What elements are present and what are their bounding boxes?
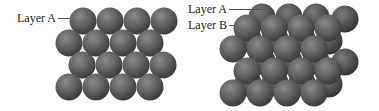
sphere-layer-a bbox=[137, 74, 164, 101]
sphere-layer-a bbox=[83, 74, 110, 101]
left-layer-a-leader-line bbox=[58, 18, 70, 19]
left-layer-a bbox=[56, 8, 178, 101]
sphere-layer-b bbox=[274, 80, 301, 107]
right-layer-b-label: Layer B bbox=[188, 18, 227, 32]
sphere-layer-a bbox=[56, 74, 83, 101]
right-layer-a-label: Layer A bbox=[188, 2, 227, 16]
right-layer-a-leader-line bbox=[229, 9, 263, 10]
sphere-layer-a bbox=[110, 74, 137, 101]
sphere-layers-svg bbox=[0, 0, 379, 111]
right-layer-b bbox=[220, 15, 342, 107]
closest-packing-figure: Layer A Layer A Layer B bbox=[0, 0, 379, 111]
left-layer-a-label: Layer A bbox=[17, 11, 56, 25]
sphere-layer-b bbox=[247, 80, 274, 107]
sphere-layer-b bbox=[301, 80, 328, 107]
sphere-layer-b bbox=[220, 80, 247, 107]
right-layer-b-leader-line bbox=[229, 25, 236, 26]
